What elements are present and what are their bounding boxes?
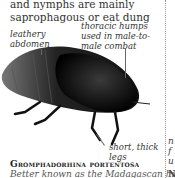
species-name: Gromphadorhina portentosa [10, 159, 139, 169]
right-column-fragment: n [168, 136, 174, 146]
cockroach-image [0, 40, 150, 145]
species-description: Better known as the Madagascan hissing [10, 169, 175, 178]
right-column-fragment: f [168, 146, 171, 156]
leader-line-thoracic [125, 48, 126, 78]
right-column-fragment: u [168, 156, 174, 166]
leader-line-leathery [41, 49, 42, 55]
column-divider [165, 0, 166, 178]
